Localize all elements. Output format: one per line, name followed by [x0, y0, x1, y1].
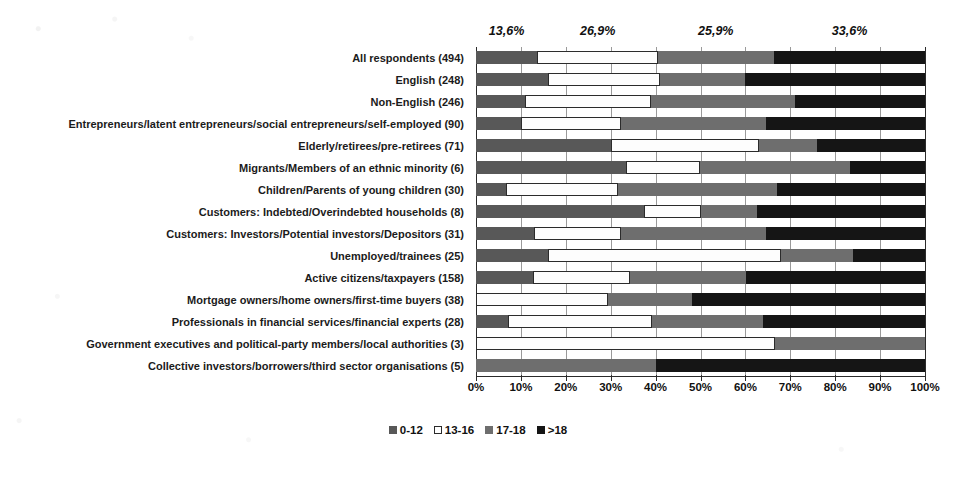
category-label: All respondents (494) [0, 47, 470, 69]
bar-row [476, 201, 925, 223]
percentage-annotation: 33,6% [832, 24, 867, 38]
category-label: Children/Parents of young children (30) [0, 179, 470, 201]
legend-item[interactable]: >18 [537, 424, 568, 436]
legend-item[interactable]: 0-12 [389, 424, 423, 436]
category-label: Professionals in financial services/fina… [0, 311, 470, 333]
bar-segment [817, 139, 925, 152]
bar-segment [476, 161, 626, 174]
bar-row [476, 113, 925, 135]
bar-segment [476, 359, 656, 372]
stacked-bar [476, 359, 925, 372]
bar-segment [652, 315, 763, 328]
x-tick-label: 30% [599, 381, 622, 393]
percentage-annotation: 25,9% [698, 24, 733, 38]
category-label: Mortgage owners/home owners/first-time b… [0, 289, 470, 311]
category-label: Non-English (246) [0, 91, 470, 113]
bar-segment [644, 205, 700, 218]
bar-row [476, 47, 925, 69]
bar-row [476, 267, 925, 289]
bar-segment [611, 139, 759, 152]
bar-segment [534, 227, 621, 240]
stacked-bar-chart: All respondents (494)English (248)Non-En… [0, 0, 956, 478]
stacked-bar [476, 337, 925, 350]
category-label: Customers: Investors/Potential investors… [0, 223, 470, 245]
stacked-bar [476, 161, 925, 174]
x-tick-label: 70% [779, 381, 802, 393]
bar-row [476, 355, 925, 377]
bar-segment [626, 161, 701, 174]
bar-segment [476, 51, 537, 64]
bar-row [476, 69, 925, 91]
stacked-bar [476, 117, 925, 130]
legend-item[interactable]: 13-16 [434, 424, 474, 436]
bar-segment [476, 249, 548, 262]
bar-segment [795, 95, 925, 108]
category-label: Government executives and political-part… [0, 333, 470, 355]
bar-segment [476, 293, 608, 306]
x-tick-label: 10% [509, 381, 532, 393]
stacked-bar [476, 293, 925, 306]
x-tick-label: 60% [734, 381, 757, 393]
bar-segment [757, 205, 925, 218]
stacked-bar [476, 51, 925, 64]
stacked-bar [476, 271, 925, 284]
category-axis-labels: All respondents (494)English (248)Non-En… [0, 47, 470, 377]
bar-segment [745, 73, 925, 86]
bar-segment [476, 117, 521, 130]
legend-swatch-icon [537, 426, 545, 434]
percentage-annotation: 13,6% [489, 24, 524, 38]
bar-segment [476, 337, 775, 350]
bar-segment [618, 183, 776, 196]
legend-swatch-icon [434, 426, 442, 434]
percentage-annotations: 13,6%26,9%25,9%33,6% [476, 24, 925, 46]
legend-swatch-icon [389, 426, 397, 434]
legend-label: 17-18 [496, 424, 525, 436]
bar-segment [533, 271, 630, 284]
bar-segment [766, 227, 925, 240]
bar-segment [692, 293, 925, 306]
legend-label: 0-12 [400, 424, 423, 436]
x-tick-label: 80% [824, 381, 847, 393]
bar-row [476, 135, 925, 157]
bar-segment [521, 117, 621, 130]
bar-segment [658, 51, 774, 64]
bar-segment [775, 337, 925, 350]
bar-segment [759, 139, 817, 152]
bar-segment [660, 73, 745, 86]
gridline [925, 47, 926, 377]
x-tick-label: 100% [910, 381, 939, 393]
bar-row [476, 289, 925, 311]
bar-segment [656, 359, 925, 372]
x-axis-tick-labels: 0%10%20%30%40%50%60%70%80%90%100% [476, 381, 925, 401]
category-label: Active citizens/taxpayers (158) [0, 267, 470, 289]
category-label: Entrepreneurs/latent entrepreneurs/socia… [0, 113, 470, 135]
category-label: English (248) [0, 69, 470, 91]
bar-row [476, 157, 925, 179]
bar-segment [700, 161, 850, 174]
bar-segment [525, 95, 651, 108]
bar-segment [774, 51, 925, 64]
category-label: Collective investors/borrowers/third sec… [0, 355, 470, 377]
category-label: Migrants/Members of an ethnic minority (… [0, 157, 470, 179]
bar-segment [548, 73, 660, 86]
legend-item[interactable]: 17-18 [485, 424, 525, 436]
bar-segment [506, 183, 618, 196]
bar-segment [763, 315, 925, 328]
x-tick-label: 90% [869, 381, 892, 393]
bar-segment [608, 293, 691, 306]
stacked-bar [476, 205, 925, 218]
x-tick-label: 50% [689, 381, 712, 393]
stacked-bar [476, 95, 925, 108]
bar-segment [701, 205, 757, 218]
bar-segment [746, 271, 925, 284]
bar-segment [476, 205, 644, 218]
category-label: Unemployed/trainees (25) [0, 245, 470, 267]
plot-area [476, 47, 925, 377]
bar-segment [651, 95, 795, 108]
percentage-annotation: 26,9% [580, 24, 615, 38]
bar-row [476, 245, 925, 267]
bar-segment [766, 117, 925, 130]
x-tick-label: 20% [554, 381, 577, 393]
stacked-bar [476, 139, 925, 152]
bar-segment [476, 95, 525, 108]
